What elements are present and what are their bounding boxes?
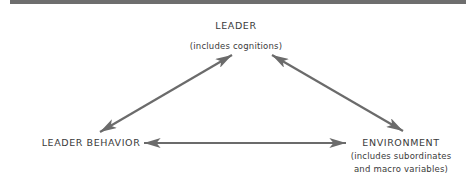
node-environment-title: ENVIRONMENT: [362, 137, 439, 148]
node-leader-subtitle: (includes cognitions): [190, 40, 283, 53]
arrow-leader-to-leader-behavior: [100, 55, 232, 132]
node-leader-behavior-title: LEADER BEHAVIOR: [42, 137, 141, 148]
arrow-leader-to-environment: [272, 55, 403, 131]
node-environment-subtitle-line2: and macro variables): [354, 163, 448, 176]
node-environment-subtitle-line1: (includes subordinates: [351, 150, 452, 163]
node-leader-title: LEADER: [215, 20, 256, 31]
